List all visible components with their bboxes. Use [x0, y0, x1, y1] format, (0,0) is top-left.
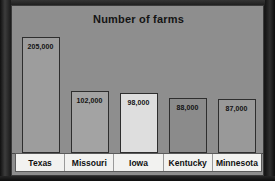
bar-missouri: 102,000: [71, 6, 109, 154]
bar-value-label-kentucky: 88,000: [170, 104, 206, 111]
category-axis-labels: TexasMissouriIowaKentuckyMinnesota: [15, 153, 262, 172]
bar-rect-kentucky: 88,000: [169, 98, 207, 153]
bar-value-label-texas: 205,000: [23, 43, 59, 50]
bar-value-label-minnesota: 87,000: [219, 105, 255, 112]
bar-minnesota: 87,000: [218, 6, 256, 154]
bar-rect-texas: 205,000: [22, 37, 60, 153]
axis-label-iowa: Iowa: [114, 154, 163, 171]
axis-label-texas: Texas: [16, 154, 65, 171]
bar-value-label-iowa: 98,000: [121, 99, 157, 106]
axis-label-kentucky: Kentucky: [164, 154, 213, 171]
bar-rect-missouri: 102,000: [71, 91, 109, 153]
figure-root: Number of farms 205,000102,00098,00088,0…: [0, 0, 275, 181]
bar-kentucky: 88,000: [169, 6, 207, 154]
bar-iowa: 98,000: [120, 6, 158, 154]
page-edge-bottom: [0, 176, 275, 181]
page-edge-left: [0, 0, 11, 181]
axis-label-minnesota: Minnesota: [213, 154, 261, 171]
bar-value-label-missouri: 102,000: [72, 97, 108, 104]
bar-texas: 205,000: [22, 6, 60, 154]
bar-rect-minnesota: 87,000: [218, 99, 256, 153]
bar-chart: Number of farms 205,000102,00098,00088,0…: [11, 5, 264, 176]
plot-area: 205,000102,00098,00088,00087,000: [12, 6, 264, 154]
page-edge-right: [265, 0, 275, 181]
bar-rect-iowa: 98,000: [120, 93, 158, 153]
axis-label-missouri: Missouri: [65, 154, 114, 171]
